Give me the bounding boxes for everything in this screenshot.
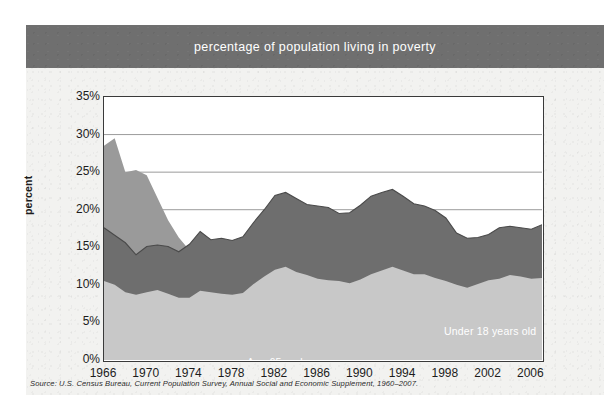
x-tick-label: 1966 bbox=[90, 366, 117, 380]
x-tick-label: 1974 bbox=[175, 366, 202, 380]
series-label-age-65-and-over: Age 65 and over bbox=[247, 356, 327, 362]
x-tick-label: 1982 bbox=[261, 366, 288, 380]
x-tick-label: 2006 bbox=[517, 366, 544, 380]
page-title: percentage of population living in pover… bbox=[194, 40, 436, 54]
y-axis-label: percent bbox=[22, 176, 34, 215]
source-note: Source: U.S. Census Bureau, Current Popu… bbox=[30, 379, 418, 388]
y-tick-label: 25% bbox=[58, 164, 100, 178]
y-axis-tick-labels: 35%30%25%20%15%10%5%0% bbox=[52, 0, 100, 416]
x-tick-label: 1986 bbox=[303, 366, 330, 380]
area-chart-svg bbox=[104, 97, 542, 360]
series-label-under-18: Under 18 years old bbox=[444, 325, 536, 337]
x-tick-label: 1994 bbox=[389, 366, 416, 380]
y-tick-label: 30% bbox=[58, 127, 100, 141]
y-tick-label: 20% bbox=[58, 202, 100, 216]
x-tick-label: 1990 bbox=[346, 366, 373, 380]
y-tick-label: 0% bbox=[58, 352, 100, 366]
x-tick-label: 1998 bbox=[431, 366, 458, 380]
x-tick-label: 1970 bbox=[132, 366, 159, 380]
title-banner: percentage of population living in pover… bbox=[26, 25, 604, 68]
x-tick-label: 2002 bbox=[474, 366, 501, 380]
x-tick-label: 1978 bbox=[218, 366, 245, 380]
y-tick-label: 5% bbox=[58, 314, 100, 328]
chart-page: percentage of population living in pover… bbox=[0, 0, 612, 416]
y-tick-label: 15% bbox=[58, 239, 100, 253]
plot-area: Under 18 years old Age 65 and over Age 1… bbox=[103, 96, 544, 362]
y-tick-label: 10% bbox=[58, 277, 100, 291]
y-tick-label: 35% bbox=[58, 89, 100, 103]
